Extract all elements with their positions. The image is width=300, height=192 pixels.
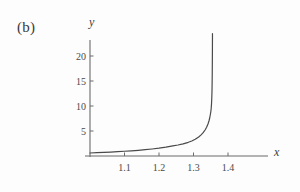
x-tick-label: 1.1 — [118, 162, 131, 173]
x-tick-label: 1.2 — [153, 162, 166, 173]
y-axis-label: y — [89, 15, 94, 30]
panel-label: (b) — [17, 19, 35, 36]
y-tick-label: 15 — [64, 76, 86, 87]
figure-panel-b: (b) y x 51015201.11.21.31.4 — [0, 0, 300, 192]
y-tick-label: 5 — [64, 126, 86, 137]
data-curve-group — [90, 34, 212, 154]
x-tick-label: 1.3 — [187, 162, 200, 173]
x-tick-label: 1.4 — [222, 162, 235, 173]
y-tick-label: 10 — [64, 101, 86, 112]
curve-path — [90, 34, 212, 154]
tick-marks-group — [90, 56, 228, 156]
x-axis-label: x — [274, 145, 279, 160]
plot-area — [0, 0, 300, 192]
axes-group — [85, 40, 268, 157]
y-tick-label: 20 — [64, 51, 86, 62]
